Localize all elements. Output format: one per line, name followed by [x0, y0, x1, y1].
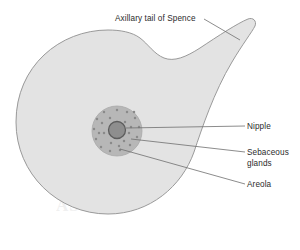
nipple-shape	[109, 122, 126, 139]
sebaceous-gland-dot	[95, 138, 98, 141]
sebaceous-gland-dot	[110, 142, 113, 145]
sebaceous-gland-dot	[96, 118, 99, 121]
sebaceous-gland-dot	[128, 132, 131, 135]
sebaceous-gland-dot	[126, 111, 129, 114]
breast-anatomy-figure: ASTUDY Axillary tail of Spence Nipple Se…	[0, 0, 300, 250]
sebaceous-gland-dot	[129, 144, 132, 147]
sebaceous-gland-dot	[136, 136, 139, 139]
label-nipple: Nipple	[247, 122, 271, 133]
label-areola: Areola	[247, 180, 271, 191]
sebaceous-gland-dot	[134, 117, 137, 120]
sebaceous-gland-dot	[100, 146, 103, 149]
sebaceous-gland-dot	[109, 117, 112, 120]
sebaceous-gland-dot	[124, 121, 127, 124]
sebaceous-gland-dot	[123, 140, 126, 143]
sebaceous-gland-dot	[116, 109, 119, 112]
sebaceous-gland-dot	[103, 111, 106, 114]
sebaceous-gland-dot	[109, 150, 112, 153]
sebaceous-gland-dot	[98, 132, 101, 135]
sebaceous-gland-dot	[103, 132, 106, 135]
sebaceous-gland-dot	[101, 122, 104, 125]
sebaceous-gland-dot	[133, 111, 136, 114]
label-sebaceous-glands: Sebaceous glands	[247, 148, 289, 169]
sebaceous-gland-dot	[93, 128, 96, 131]
sebaceous-gland-dot	[118, 145, 121, 148]
label-axillary-tail-of-spence: Axillary tail of Spence	[115, 14, 196, 25]
